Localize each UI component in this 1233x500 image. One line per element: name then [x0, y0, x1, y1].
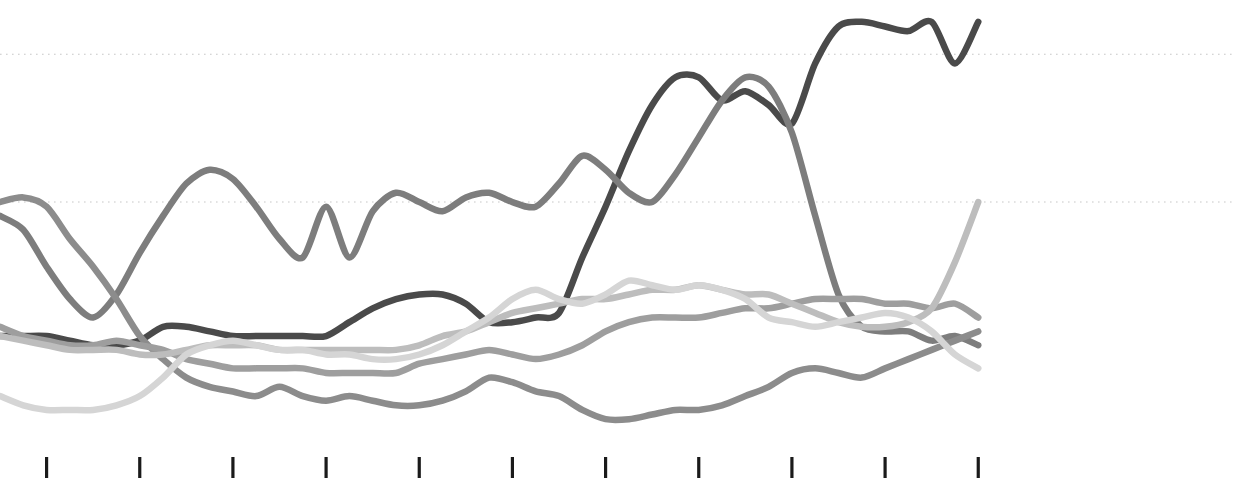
x-axis-ticks-group: [47, 457, 979, 478]
line-chart-panel: [0, 0, 1233, 500]
series-line-series-3-mid: [0, 197, 978, 420]
series-line-series-2-mid-dark: [0, 77, 978, 346]
series-lines-group: [0, 21, 978, 420]
chart-canvas: [0, 0, 1233, 500]
